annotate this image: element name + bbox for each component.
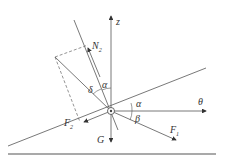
- g-label: G: [97, 135, 104, 145]
- force-diagram: z N2 α δ F2 G α β θ F1: [0, 0, 230, 167]
- alpha-arc-right: [131, 103, 132, 111]
- n2-letter: N: [92, 40, 99, 51]
- delta-label: δ: [88, 85, 93, 95]
- delta-arc: [93, 89, 101, 94]
- f1-label: F1: [170, 125, 179, 137]
- z-label: z: [116, 17, 120, 27]
- f2-subscript: 2: [70, 124, 73, 130]
- beta-arc: [130, 111, 132, 120]
- diagram-canvas: [0, 0, 230, 167]
- theta-label: θ: [198, 97, 203, 107]
- f2-vector: [84, 111, 111, 122]
- f1-subscript: 1: [176, 131, 179, 137]
- f2-label: F2: [64, 118, 73, 130]
- origin-dot: [110, 110, 112, 112]
- dashed-line-top: [55, 45, 88, 57]
- alpha-top-label: α: [102, 80, 107, 90]
- alpha-right-label: α: [136, 99, 141, 109]
- beta-label: β: [135, 114, 140, 124]
- n2-label: N2: [92, 41, 102, 53]
- n2-subscript: 2: [99, 47, 102, 53]
- f1-vector: [111, 111, 176, 140]
- dashed-line-left: [55, 57, 80, 122]
